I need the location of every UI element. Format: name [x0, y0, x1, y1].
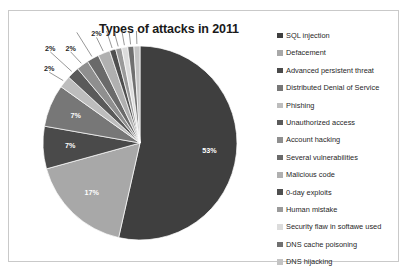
legend-item[interactable]: DNS hijacking — [277, 253, 408, 270]
legend-item-label: Malicious code — [286, 171, 335, 178]
chart-frame: Types of attacks in 2011 53%17%7%7%2%2%2… — [8, 10, 399, 262]
legend-item-label: Several vulnerabilities — [286, 154, 358, 161]
pie-slice-label: 7% — [70, 111, 81, 120]
legend-item[interactable]: Unauthorized access — [277, 114, 408, 131]
legend-swatch-icon — [277, 189, 283, 195]
legend-item-label: Account hacking — [286, 136, 340, 143]
pie-slice-label: 17% — [85, 188, 100, 197]
pie-leader-line — [97, 37, 104, 51]
legend-item-label: Unauthorized access — [286, 119, 355, 126]
pie-leader-line — [136, 31, 137, 44]
legend-item-label: SQL injection — [286, 32, 330, 39]
legend-item[interactable]: Distributed Denial of Service — [277, 79, 408, 96]
pie-leader-line — [103, 31, 112, 48]
legend-swatch-icon — [277, 207, 283, 213]
legend-item[interactable]: Account hacking — [277, 131, 408, 148]
legend-item-label: DNS cache poisoning — [286, 241, 357, 248]
chart-legend: SQL injectionDefacementAdvanced persiste… — [277, 27, 408, 272]
pie-leader-line — [49, 72, 63, 80]
legend-swatch-icon — [277, 259, 283, 265]
pie-leader-line — [129, 31, 131, 44]
pie-slice-label: 2% — [65, 44, 76, 53]
pie-chart: 53%17%7%7%2%2%2%2%2%1%1%1%1%1% — [9, 31, 271, 263]
legend-item[interactable]: Phishing — [277, 97, 408, 114]
legend-item[interactable]: Several vulnerabilities — [277, 149, 408, 166]
pie-leader-line — [77, 32, 92, 56]
legend-item-label: Phishing — [286, 102, 314, 109]
pie-slice-label: 53% — [202, 146, 217, 155]
legend-swatch-icon — [277, 103, 283, 109]
legend-item-label: DNS hijacking — [286, 258, 332, 265]
legend-swatch-icon — [277, 33, 283, 39]
legend-item[interactable]: SQL injection — [277, 27, 408, 44]
legend-item[interactable]: DNS cache poisoning — [277, 236, 408, 253]
legend-item[interactable]: Defacement — [277, 44, 408, 61]
legend-swatch-icon — [277, 50, 283, 56]
legend-swatch-icon — [277, 155, 283, 161]
pie-leader-line — [114, 32, 118, 47]
legend-item[interactable]: 0-day exploits — [277, 184, 408, 201]
legend-item-label: Distributed Denial of Service — [286, 84, 379, 91]
legend-swatch-icon — [277, 242, 283, 248]
legend-item-label: Defacement — [286, 49, 326, 56]
legend-item-label: Advanced persistent threat — [286, 67, 374, 74]
legend-item[interactable]: Human mistake — [277, 201, 408, 218]
pie-slice-label: 2% — [44, 64, 55, 73]
legend-item[interactable]: Advanced persistent threat — [277, 62, 408, 79]
legend-item[interactable]: Security flaw in softawe used — [277, 218, 408, 235]
legend-swatch-icon — [277, 85, 283, 91]
legend-swatch-icon — [277, 120, 283, 126]
pie-svg: 53%17%7%7%2%2%2%2%2%1%1%1%1%1% — [9, 31, 271, 263]
legend-item-label: 0-day exploits — [286, 189, 332, 196]
legend-swatch-icon — [277, 172, 283, 178]
pie-slice-label: 7% — [65, 141, 76, 150]
legend-swatch-icon — [277, 224, 283, 230]
pie-leader-line — [120, 31, 125, 45]
legend-swatch-icon — [277, 137, 283, 143]
legend-item-label: Security flaw in softawe used — [286, 223, 381, 230]
pie-slice-label: 2% — [91, 31, 102, 38]
legend-item[interactable]: Malicious code — [277, 166, 408, 183]
legend-swatch-icon — [277, 68, 283, 74]
pie-slice-label: 2% — [72, 31, 83, 33]
pie-slice-label: 2% — [45, 44, 56, 53]
legend-item-label: Human mistake — [286, 206, 337, 213]
pie-slice-label: 1% — [109, 31, 120, 33]
pie-leader-line — [71, 52, 82, 64]
